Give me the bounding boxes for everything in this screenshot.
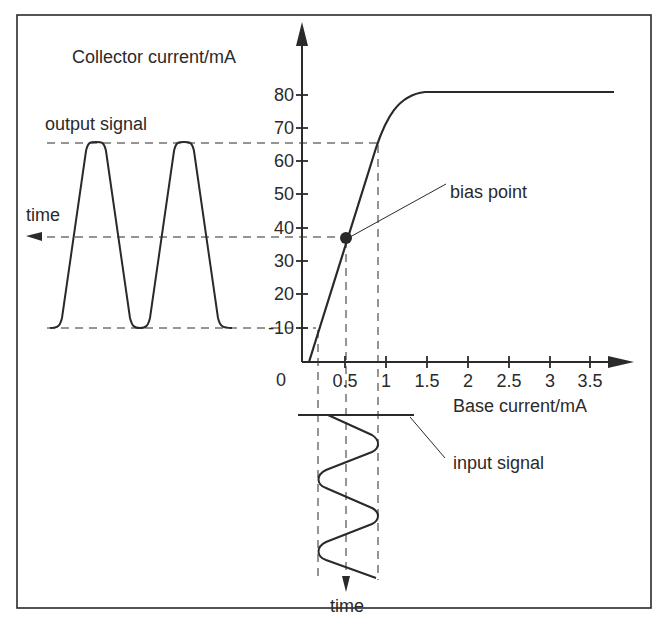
svg-text:30: 30: [274, 251, 294, 271]
svg-text:60: 60: [274, 151, 294, 171]
time-left-arrow-icon: [26, 232, 42, 241]
output-signal-label: output signal: [45, 114, 147, 134]
x-tick-labels: 0.5 1 1.5 2 2.5 3 3.5: [332, 371, 602, 391]
y-axis-label: Collector current/mA: [72, 47, 236, 67]
figure-frame: [17, 15, 651, 608]
time-left-label: time: [26, 205, 60, 225]
output-signal-waveform: [50, 142, 232, 328]
input-signal-leader: [410, 417, 445, 458]
x-axis-arrowhead-icon: [608, 356, 634, 368]
svg-text:1.5: 1.5: [414, 371, 439, 391]
svg-text:2: 2: [463, 371, 473, 391]
svg-text:1: 1: [381, 371, 391, 391]
svg-text:0.5: 0.5: [332, 371, 357, 391]
bias-point-label: bias point: [450, 182, 527, 202]
x-axis-label: Base current/mA: [453, 396, 587, 416]
bias-point-leader: [350, 184, 446, 237]
y-axis-arrowhead-icon: [296, 22, 308, 46]
svg-text:3.5: 3.5: [577, 371, 602, 391]
bias-point-marker: [340, 232, 352, 244]
svg-text:20: 20: [274, 284, 294, 304]
transfer-curve: [309, 92, 614, 362]
svg-text:40: 40: [274, 218, 294, 238]
svg-text:2.5: 2.5: [496, 371, 521, 391]
y-tick-labels: 80 70 60 50 40 30 20 -10: [268, 85, 294, 338]
svg-text:-10: -10: [268, 318, 294, 338]
svg-text:80: 80: [274, 85, 294, 105]
time-down-label: time: [330, 596, 364, 616]
svg-text:3: 3: [545, 371, 555, 391]
input-signal-label: input signal: [453, 453, 544, 473]
input-signal-waveform: [319, 415, 379, 578]
svg-text:50: 50: [274, 184, 294, 204]
transistor-transfer-diagram: Collector current/mA Base current/mA 0 o…: [0, 0, 666, 621]
time-down-arrow-icon: [342, 576, 350, 592]
svg-text:70: 70: [274, 118, 294, 138]
origin-label: 0: [276, 370, 286, 390]
